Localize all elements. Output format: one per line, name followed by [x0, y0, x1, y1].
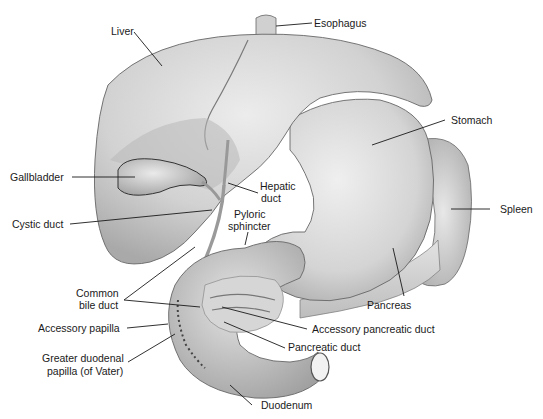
label-accessory-pancreatic-duct: Accessory pancreatic duct: [312, 323, 435, 335]
leader-accessory-papilla: [127, 324, 168, 328]
label-pyloric-sphincter-line1: Pyloric: [234, 208, 266, 220]
leader-esophagus: [276, 23, 312, 26]
label-pyloric-sphincter-line2: sphincter: [228, 220, 271, 232]
label-pancreatic-duct: Pancreatic duct: [288, 341, 360, 353]
label-esophagus: Esophagus: [314, 17, 367, 29]
label-hepatic-duct-line1: Hepatic: [260, 180, 296, 192]
label-duodenum: Duodenum: [261, 399, 313, 411]
leader-pyloric-sphincter: [245, 232, 248, 245]
label-common-bile-duct-line1: Common: [76, 287, 119, 299]
label-stomach: Stomach: [451, 114, 493, 126]
label-common-bile-duct-line2: bile duct: [79, 299, 118, 311]
diagram-canvas: Liver Esophagus Stomach Gallbladder Hepa…: [0, 0, 543, 419]
duodenum-opening: [311, 353, 329, 381]
label-pancreas: Pancreas: [367, 299, 411, 311]
anatomy-diagram: Liver Esophagus Stomach Gallbladder Hepa…: [0, 0, 543, 419]
label-spleen: Spleen: [500, 203, 533, 215]
label-hepatic-duct-line2: duct: [261, 192, 281, 204]
label-cystic-duct: Cystic duct: [12, 218, 63, 230]
label-accessory-papilla: Accessory papilla: [38, 322, 120, 334]
label-liver: Liver: [111, 25, 134, 37]
label-gallbladder: Gallbladder: [10, 171, 64, 183]
leader-greater-duodenal-papilla: [128, 334, 175, 362]
pancreas-head: [202, 276, 283, 332]
label-greater-duodenal-papilla-line2: papilla (of Vater): [47, 365, 123, 377]
label-greater-duodenal-papilla-line1: Greater duodenal: [42, 352, 124, 364]
